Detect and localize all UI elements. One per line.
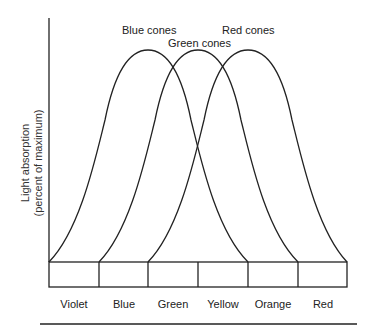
y-axis-label: Light absorption (percent of maximum) <box>19 93 45 233</box>
spectrum-label-green: Green <box>148 298 198 310</box>
spectrum-label-red: Red <box>298 298 348 310</box>
blue-cones-curve <box>49 50 248 262</box>
red-cones-label: Red cones <box>222 24 275 36</box>
spectrum-label-orange: Orange <box>248 298 298 310</box>
green-cones-label: Green cones <box>168 37 231 49</box>
spectrum-dividers <box>99 262 298 287</box>
red-cones-curve <box>148 50 347 262</box>
y-axis-label-line1: Light absorption <box>19 93 32 233</box>
spectrum-label-yellow: Yellow <box>198 298 248 310</box>
spectrum-label-blue: Blue <box>99 298 149 310</box>
cone-absorption-diagram <box>0 0 365 333</box>
y-axis-label-line2: (percent of maximum) <box>32 93 45 233</box>
blue-cones-label: Blue cones <box>122 24 176 36</box>
spectrum-label-violet: Violet <box>49 298 99 310</box>
green-cones-curve <box>99 50 298 262</box>
